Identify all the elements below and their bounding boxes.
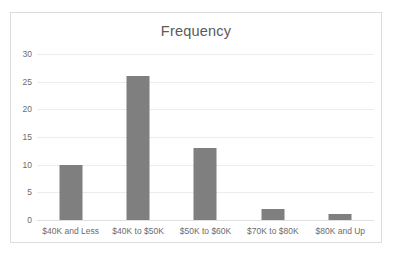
chart-frame: Frequency 051015202530 $40K and Less$40K… [10,12,382,243]
bar[interactable] [261,209,284,220]
bar[interactable] [59,165,82,220]
bar-group: $70K to $80K [239,54,306,220]
y-axis-tick-label: 25 [23,77,32,86]
bar[interactable] [194,148,217,220]
x-axis-category-label: $80K and Up [315,227,365,236]
y-axis-tick-label: 10 [23,160,32,169]
y-axis-tick-label: 15 [23,133,32,142]
y-axis-tick-label: 0 [27,216,32,225]
bar-group: $50K to $60K [172,54,239,220]
x-axis-category-label: $50K to $60K [180,227,232,236]
x-axis-category-label: $40K and Less [42,227,99,236]
bar-group: $40K and Less [37,54,104,220]
y-axis-tick-label: 20 [23,105,32,114]
bar[interactable] [127,76,150,220]
bar-group: $40K to $50K [104,54,171,220]
y-axis-tick-label: 5 [27,188,32,197]
x-axis-category-label: $40K to $50K [112,227,164,236]
plot-area: 051015202530 $40K and Less$40K to $50K$5… [37,54,374,220]
gridline [37,220,374,221]
x-axis-category-label: $70K to $80K [247,227,299,236]
bar[interactable] [329,214,352,220]
chart-title: Frequency [11,23,381,39]
bar-group: $80K and Up [307,54,374,220]
y-axis-tick-label: 30 [23,50,32,59]
bar-series: $40K and Less$40K to $50K$50K to $60K$70… [37,54,374,220]
